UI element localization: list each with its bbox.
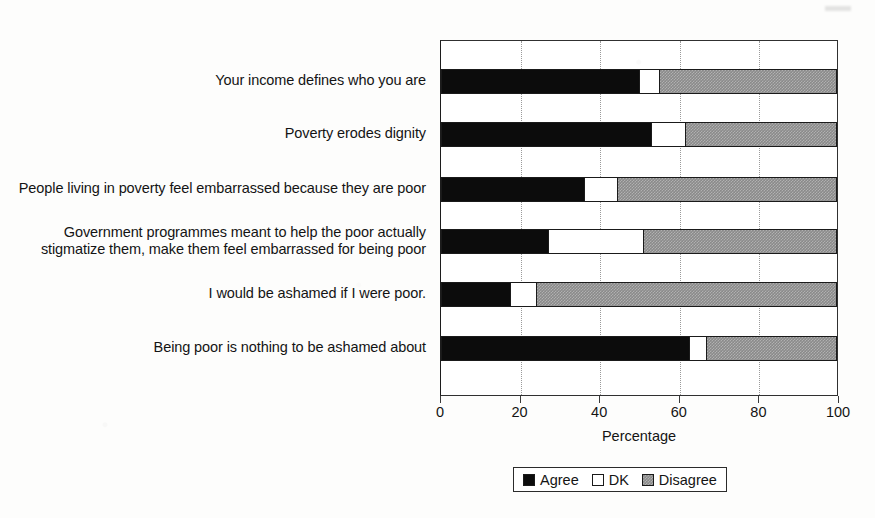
category-label-column: Your income defines who you are Poverty …: [0, 40, 432, 396]
scan-artifact: [825, 6, 851, 11]
legend-label-agree: Agree: [540, 472, 579, 488]
x-axis-tick: [758, 396, 759, 403]
bar-segment-dk[interactable]: [651, 122, 685, 147]
legend-swatch-agree: [523, 474, 535, 486]
bar-segment-dk[interactable]: [639, 69, 659, 94]
bar-segment-disagree[interactable]: [536, 282, 837, 307]
legend-swatch-dk: [592, 474, 604, 486]
bar-row[interactable]: [441, 177, 837, 202]
bar-segment-dk[interactable]: [584, 177, 618, 202]
x-axis-tick-label: 40: [591, 404, 607, 420]
x-axis-tick-label: 0: [436, 404, 444, 420]
x-axis-tick-label: 100: [826, 404, 850, 420]
category-label: Government programmes meant to help the …: [0, 224, 426, 258]
legend-item-disagree[interactable]: Disagree: [642, 472, 717, 488]
chart-legend: Agree DK Disagree: [513, 467, 727, 492]
bar-segment-agree[interactable]: [441, 229, 548, 254]
x-axis-title: Percentage: [440, 428, 838, 444]
x-axis-tick: [520, 396, 521, 403]
chart-page: Your income defines who you are Poverty …: [0, 0, 875, 518]
bar-segment-disagree[interactable]: [659, 69, 837, 94]
bar-segment-disagree[interactable]: [643, 229, 837, 254]
bar-row[interactable]: [441, 336, 837, 361]
bar-segment-disagree[interactable]: [685, 122, 837, 147]
legend-item-agree[interactable]: Agree: [523, 472, 579, 488]
bar-row[interactable]: [441, 229, 837, 254]
bar-row[interactable]: [441, 122, 837, 147]
bar-segment-agree[interactable]: [441, 282, 510, 307]
legend-item-dk[interactable]: DK: [592, 472, 629, 488]
bar-row[interactable]: [441, 282, 837, 307]
bar-segment-dk[interactable]: [548, 229, 643, 254]
bar-segment-agree[interactable]: [441, 122, 651, 147]
x-axis-tick-label: 60: [671, 404, 687, 420]
bar-segment-dk[interactable]: [510, 282, 536, 307]
x-axis-tick: [679, 396, 680, 403]
legend-label-dk: DK: [609, 472, 629, 488]
legend-swatch-disagree: [642, 474, 654, 486]
x-axis-tick: [440, 396, 441, 403]
category-label: Being poor is nothing to be ashamed abou…: [0, 339, 426, 356]
bar-segment-agree[interactable]: [441, 336, 689, 361]
bar-row[interactable]: [441, 69, 837, 94]
x-axis-tick: [838, 396, 839, 403]
bar-segment-disagree[interactable]: [706, 336, 837, 361]
x-axis-tick: [599, 396, 600, 403]
legend-label-disagree: Disagree: [659, 472, 717, 488]
category-label: I would be ashamed if I were poor.: [0, 285, 426, 302]
category-label: Your income defines who you are: [0, 72, 426, 89]
x-axis-tick-label: 80: [750, 404, 766, 420]
bar-segment-dk[interactable]: [689, 336, 707, 361]
plot-area: [440, 40, 838, 396]
x-axis-tick-label: 20: [512, 404, 528, 420]
bar-segment-disagree[interactable]: [617, 177, 837, 202]
category-label: Poverty erodes dignity: [0, 125, 426, 142]
bar-segment-agree[interactable]: [441, 177, 584, 202]
bar-segment-agree[interactable]: [441, 69, 639, 94]
category-label: People living in poverty feel embarrasse…: [0, 180, 426, 197]
